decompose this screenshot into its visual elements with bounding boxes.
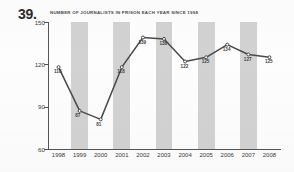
data-point-label-2000: 81: [96, 122, 101, 127]
data-point-marker: [99, 118, 102, 121]
data-point-marker: [141, 36, 144, 39]
y-tick-mark: [44, 149, 49, 150]
data-point-marker: [247, 53, 250, 56]
data-point-label-2007: 127: [244, 57, 252, 62]
data-point-marker: [57, 66, 60, 69]
x-tick-label-2008: 2008: [256, 152, 282, 158]
data-point-label-2002: 139: [138, 40, 146, 45]
data-point-label-2001: 118: [117, 69, 124, 74]
y-axis-line: [48, 22, 49, 149]
data-point-label-2005: 125: [202, 59, 210, 64]
data-point-label-2003: 138: [160, 41, 168, 46]
data-point-marker: [226, 43, 229, 46]
y-tick-label: 150: [21, 19, 45, 26]
y-tick-label: 120: [21, 61, 45, 68]
y-tick-label: 60: [21, 146, 45, 153]
data-point-label-1999: 87: [75, 113, 80, 118]
data-point-label-1998: 118: [54, 69, 61, 74]
chart-title: NUMBER OF JOURNALISTS IN PRISON EACH YEA…: [50, 10, 198, 15]
data-point-label-2008: 125: [265, 59, 273, 64]
y-tick-mark: [44, 64, 49, 65]
data-point-marker: [78, 109, 81, 112]
data-point-marker: [184, 60, 187, 63]
y-tick-mark: [44, 107, 49, 108]
data-point-marker: [163, 37, 166, 40]
x-axis-line: [48, 149, 281, 150]
data-point-label-2006: 134: [223, 47, 231, 52]
chart-page: 39. NUMBER OF JOURNALISTS IN PRISON EACH…: [0, 0, 294, 172]
data-point-marker: [205, 56, 208, 59]
data-point-marker: [120, 66, 123, 69]
data-line: [59, 38, 270, 120]
y-tick-label: 90: [21, 103, 45, 110]
y-tick-mark: [44, 22, 49, 23]
data-point-marker: [268, 56, 271, 59]
data-point-label-2004: 122: [181, 64, 189, 69]
